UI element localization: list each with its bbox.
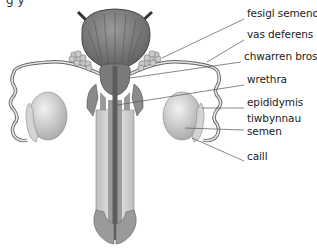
bladder <box>82 9 150 68</box>
label-seminal-vesicle: fesigl semenol <box>247 7 317 19</box>
testis-left <box>26 92 67 142</box>
label-seminiferous-tubules-line2: semen <box>247 125 282 137</box>
male-reproductive-diagram: g y <box>0 0 317 249</box>
label-epididymis: epididymis <box>247 96 303 108</box>
label-seminiferous-tubules-line1: tiwbynnau <box>247 112 301 124</box>
label-vas-deferens: vas deferens <box>247 28 313 40</box>
caption-fragment: g y <box>6 0 25 7</box>
label-urethra: wrethra <box>247 73 287 85</box>
label-scrotum: caill <box>247 150 267 162</box>
label-prostate: chwarren brostad <box>244 50 317 62</box>
testis-right <box>163 92 204 142</box>
